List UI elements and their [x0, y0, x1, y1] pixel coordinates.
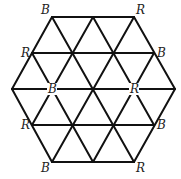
hexagon-lattice-diagram: BRRBBRRBBR — [0, 0, 181, 179]
vertex-label-red: R — [20, 118, 30, 132]
vertex-label-red: R — [129, 82, 139, 96]
vertex-label-red: R — [135, 161, 145, 175]
vertex-label-blue: B — [40, 161, 50, 175]
vertex-label-red: R — [135, 3, 145, 17]
vertex-label-blue: B — [47, 82, 57, 96]
vertex-label-red: R — [20, 46, 30, 60]
vertex-label-blue: B — [40, 3, 50, 17]
vertex-label-blue: B — [156, 118, 166, 132]
lattice-canvas: BRRBBRRBBR — [0, 0, 181, 179]
lattice-edges — [12, 17, 175, 162]
vertex-label-blue: B — [156, 46, 166, 60]
